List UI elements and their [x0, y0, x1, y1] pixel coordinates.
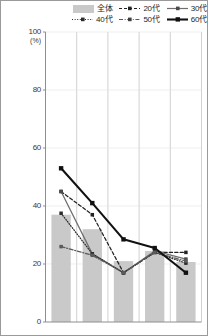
y-tick-label-20: 20: [15, 259, 41, 268]
chart-frame: 全体 20代 30代: [0, 0, 208, 336]
y-tick-label-40: 40: [15, 201, 41, 210]
y-tick-label-100: 100: [15, 27, 41, 36]
chart-y-axis-unit: (%): [15, 37, 41, 44]
chart-bars: [51, 215, 195, 322]
y-tick-label-0: 0: [15, 317, 41, 326]
y-tick-label-60: 60: [15, 143, 41, 152]
y-tick-label-80: 80: [15, 85, 41, 94]
chart-plot-area: [1, 1, 208, 336]
chart-lines: [59, 166, 188, 275]
